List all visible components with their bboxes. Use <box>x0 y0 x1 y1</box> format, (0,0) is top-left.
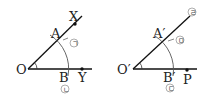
figure-copied-angle: O′ P A′ B′ ㄹ ㅁ ㄷ <box>117 8 197 93</box>
label-p: P <box>183 72 192 87</box>
step-marker-rieul-glyph: ㄹ <box>190 9 196 17</box>
label-x: X <box>69 9 79 24</box>
step-marker-mieum-glyph: ㅁ <box>178 37 184 45</box>
angle-mark <box>140 63 143 69</box>
angle-construction-diagram: O X Y A B ㉠ ㄱ ㄴ O′ P A′ B′ ㄹ ㅁ ㄷ <box>0 0 207 100</box>
label-b-prime: B′ <box>163 70 176 85</box>
marker-arrow-a-prime <box>168 39 174 41</box>
step-marker-giyeok-glyph: ㄱ <box>72 40 78 48</box>
label-a-prime: A′ <box>152 26 165 41</box>
label-b: B <box>59 70 69 85</box>
figure-original-angle: O X Y A B ㉠ ㄱ ㄴ <box>16 9 92 94</box>
angle-mark <box>35 63 38 69</box>
marker-arrow-a <box>63 38 68 40</box>
label-a: A <box>50 26 61 41</box>
step-marker-nieun-glyph: ㄴ <box>63 86 69 94</box>
label-y: Y <box>77 70 87 85</box>
step-marker-digeut-glyph: ㄷ <box>168 85 174 93</box>
label-o: O <box>16 62 27 77</box>
label-o-prime: O′ <box>117 62 131 77</box>
